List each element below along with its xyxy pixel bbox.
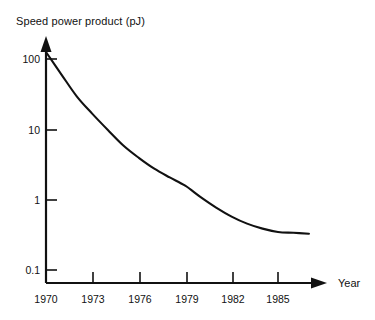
y-tick-label-0-1: 0.1	[25, 264, 40, 276]
y-tick-label-10: 10	[28, 124, 40, 136]
x-tick-label-1976: 1976	[128, 293, 152, 305]
data-series-line	[46, 52, 309, 234]
x-tick-label-1982: 1982	[221, 293, 245, 305]
y-axis-arrow-icon	[41, 36, 52, 52]
y-tick-label-100: 100	[22, 53, 40, 65]
x-tick-label-1979: 1979	[175, 293, 199, 305]
chart-container: Speed power product (pJ) 100 10 1 0.1 19…	[0, 0, 375, 320]
x-tick-label-1973: 1973	[81, 293, 105, 305]
x-tick-label-1970: 1970	[34, 293, 58, 305]
x-axis-label: Year	[338, 277, 361, 289]
y-tick-label-1: 1	[34, 194, 40, 206]
x-tick-label-1985: 1985	[266, 293, 290, 305]
x-axis-arrow-icon	[311, 278, 327, 289]
chart-plot-area: 100 10 1 0.1 1970 1973 1976 1979 1982 19…	[0, 0, 375, 320]
